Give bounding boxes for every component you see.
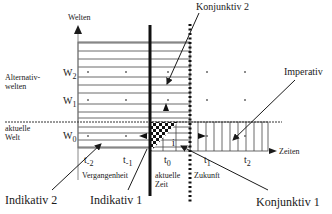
x-axis-label: Zeiten bbox=[279, 147, 299, 156]
world-label-w1: W1 bbox=[63, 95, 76, 109]
indikativ1-label: Indikativ 1 bbox=[90, 193, 142, 207]
x-axis-arrow-icon bbox=[269, 148, 277, 154]
present-label-line1: aktuelle bbox=[155, 171, 181, 180]
imperativ-label: Imperativ bbox=[284, 66, 323, 77]
y-axis-arrow-icon bbox=[74, 25, 82, 34]
y-axis-label: Welten bbox=[68, 13, 90, 22]
time-labels: t-2 t-1 t0 t1 t2 bbox=[84, 154, 251, 168]
indikativ1-pointer bbox=[128, 149, 147, 190]
indikativ2-label: Indikativ 2 bbox=[5, 193, 57, 207]
future-label: Zukunft bbox=[194, 171, 221, 180]
center-marker: i bbox=[172, 137, 175, 148]
indikativ2-pointer bbox=[52, 144, 101, 190]
time-label-t-1: t-1 bbox=[123, 154, 132, 168]
konjunktiv1-pointer bbox=[181, 146, 268, 190]
world-label-w2: W2 bbox=[63, 67, 76, 81]
mood-time-worlds-diagram: Welten Zeiten W2 W1 W0 Alternativ- welte… bbox=[0, 0, 332, 214]
alternative-worlds-label-line1: Alternativ- bbox=[5, 73, 40, 82]
actual-world-label-line2: Welt bbox=[5, 133, 21, 142]
present-label-line2: Zeit bbox=[155, 180, 169, 189]
time-label-t2: t2 bbox=[244, 154, 251, 168]
world-labels: W2 W1 W0 bbox=[63, 67, 76, 144]
time-label-t0: t0 bbox=[164, 154, 171, 168]
past-label: Vergangenheit bbox=[82, 171, 129, 180]
konjunktiv1-label: Konjunktiv 1 bbox=[256, 195, 320, 209]
world-label-w0: W0 bbox=[63, 130, 76, 144]
konjunktiv2-label: Konjunktiv 2 bbox=[196, 1, 249, 12]
actual-world-label-line1: aktuelle bbox=[5, 124, 31, 133]
alternative-worlds-label-line2: welten bbox=[5, 82, 26, 91]
